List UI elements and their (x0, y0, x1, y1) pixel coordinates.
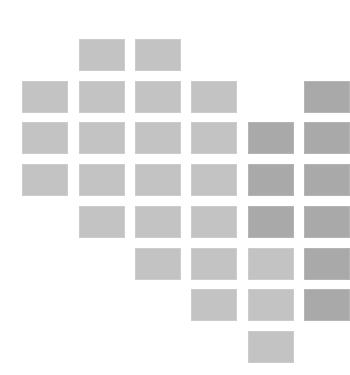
grid-tile-dark (304, 289, 350, 321)
grid-tile-dark (248, 122, 294, 154)
grid-tile-light (79, 39, 125, 71)
grid-tile-light (79, 206, 125, 238)
grid-tile-dark (248, 206, 294, 238)
grid-tile-light (79, 122, 125, 154)
grid-tile-dark (248, 164, 294, 196)
grid-tile-light (191, 81, 237, 113)
grid-tile-light (135, 164, 181, 196)
grid-tile-dark (304, 81, 350, 113)
grid-tile-light (191, 164, 237, 196)
grid-tile-light (22, 164, 68, 196)
grid-tile-light (135, 122, 181, 154)
grid-tile-light (135, 81, 181, 113)
grid-tile-light (248, 248, 294, 280)
grid-tile-light (248, 289, 294, 321)
grid-tile-light (135, 248, 181, 280)
grid-tile-light (79, 81, 125, 113)
grid-tile-dark (304, 248, 350, 280)
grid-tile-light (135, 39, 181, 71)
grid-tile-dark (304, 122, 350, 154)
grid-tile-light (191, 122, 237, 154)
grid-tile-light (22, 81, 68, 113)
grid-tile-light (135, 206, 181, 238)
grid-tile-light (191, 289, 237, 321)
grid-tile-dark (304, 164, 350, 196)
grid-tile-light (191, 206, 237, 238)
grid-tile-light (248, 331, 294, 363)
grid-tile-light (79, 164, 125, 196)
grid-tile-light (22, 122, 68, 154)
grid-tile-light (191, 248, 237, 280)
grid-tile-dark (304, 206, 350, 238)
